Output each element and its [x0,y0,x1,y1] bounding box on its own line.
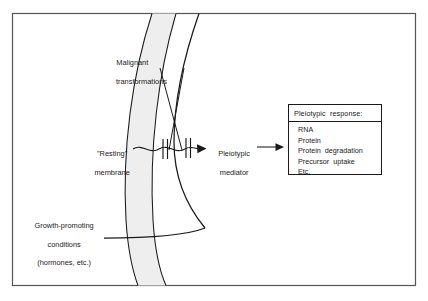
label-malignant-line2: transformations [108,77,194,86]
pleiotypic-response-box: Pleiotypic response: RNA Protein Protein… [288,104,382,175]
label-pleiotypic-mediator: Pleiotypic mediator [207,140,253,186]
pleiotypic-reaction-arrowhead [197,144,207,153]
response-box-title: Pleiotypic response: [289,105,381,122]
label-growth-line1: Growth-promoting [35,221,94,230]
label-resting-line1: "Resting" [97,149,127,158]
list-item: Etc. [298,167,381,178]
label-growth-line3: (hormones, etc.) [37,258,91,267]
label-growth-line2: conditions [47,240,80,249]
pleiotypic-response-diagram: Malignant transformations "Resting" memb… [0,0,428,301]
resting-membrane-curve [174,14,205,229]
label-mediator-line1: Pleiotypic [218,149,250,158]
label-resting-line2: membrane [94,168,129,177]
response-box-list: RNA Protein Protein degradation Precurso… [289,122,381,178]
label-resting-membrane: "Resting" membrane [84,140,132,186]
label-malignant-line1: Malignant [116,58,148,67]
list-item: Protein degradation [298,146,381,157]
list-item: Protein [298,136,381,147]
label-mediator-line2: mediator [220,168,249,177]
list-item: Precursor uptake [298,157,381,168]
label-malignant-transformations: Malignant transformations [108,49,194,104]
label-growth-promoting-conditions: Growth-promoting conditions (hormones, e… [18,212,102,276]
list-item: RNA [298,125,381,136]
mediator-to-response-arrowhead [276,143,285,151]
